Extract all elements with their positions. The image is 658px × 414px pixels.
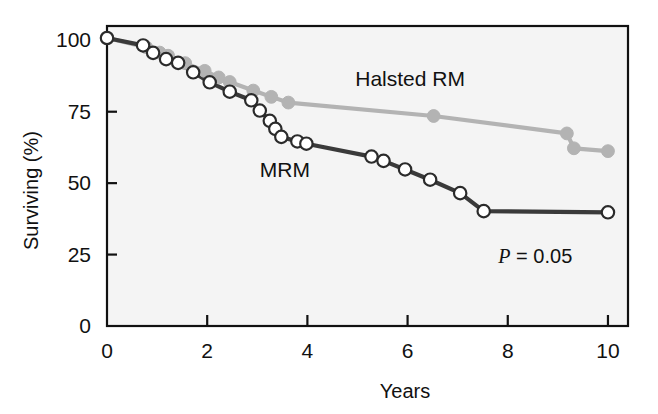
series-label-mrm: MRM	[260, 158, 310, 181]
marker-halsted-rm-9	[265, 90, 278, 103]
x-axis-tick-labels: 0246810	[101, 339, 619, 362]
x-axis-title: Years	[380, 380, 430, 402]
x-tick-label-0: 0	[101, 339, 113, 362]
marker-mrm-19	[454, 187, 466, 199]
y-tick-label-100: 100	[56, 28, 91, 51]
p-value-number: = 0.05	[511, 245, 573, 267]
x-tick-label-2: 2	[201, 339, 213, 362]
marker-mrm-4	[172, 57, 184, 69]
marker-halsted-rm-11	[427, 110, 440, 123]
y-tick-label-75: 75	[68, 100, 91, 123]
series-label-halsted-rm: Halsted RM	[355, 67, 465, 90]
marker-mrm-2	[147, 47, 159, 59]
marker-mrm-21	[602, 206, 614, 218]
figure-container: 0255075100 0246810 Halsted RMMRM P = 0.0…	[0, 0, 658, 414]
marker-halsted-rm-12	[560, 127, 573, 140]
marker-mrm-0	[101, 32, 113, 44]
marker-mrm-15	[365, 150, 377, 162]
y-tick-label-0: 0	[79, 314, 91, 337]
y-tick-label-50: 50	[68, 171, 91, 194]
marker-mrm-17	[399, 163, 411, 175]
x-tick-label-4: 4	[302, 339, 314, 362]
y-tick-label-25: 25	[68, 243, 91, 266]
marker-mrm-14	[300, 138, 312, 150]
marker-halsted-rm-13	[568, 142, 581, 155]
survival-curve-chart: 0255075100 0246810 Halsted RMMRM P = 0.0…	[0, 0, 658, 414]
marker-mrm-5	[187, 66, 199, 78]
marker-mrm-3	[160, 53, 172, 65]
y-axis-title: Surviving (%)	[20, 131, 42, 250]
marker-mrm-20	[478, 205, 490, 217]
x-tick-label-10: 10	[596, 339, 619, 362]
marker-mrm-18	[424, 174, 436, 186]
annotation-p-value: P = 0.05	[497, 245, 572, 267]
y-axis-tick-labels: 0255075100	[56, 28, 91, 337]
marker-halsted-rm-14	[602, 145, 615, 158]
marker-mrm-6	[204, 76, 216, 88]
marker-mrm-9	[254, 104, 266, 116]
x-tick-label-6: 6	[402, 339, 414, 362]
marker-mrm-7	[224, 86, 236, 98]
x-tick-label-8: 8	[502, 339, 514, 362]
marker-mrm-12	[275, 131, 287, 143]
marker-halsted-rm-10	[282, 96, 295, 109]
p-symbol: P	[497, 245, 510, 267]
marker-mrm-16	[377, 155, 389, 167]
chart-annotations: P = 0.05	[497, 245, 572, 267]
